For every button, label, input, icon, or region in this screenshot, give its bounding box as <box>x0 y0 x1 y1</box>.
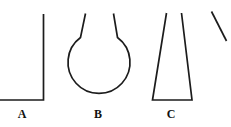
round-bottom-flask-outline-icon <box>68 14 130 94</box>
glassware-drawing-canvas <box>0 0 231 127</box>
partial-flask-edge-icon <box>212 12 227 42</box>
conical-flask-outline-icon <box>153 13 193 100</box>
glassware-label-b: B <box>94 108 102 120</box>
glassware-figure: A B C <box>0 0 231 127</box>
glassware-label-a: A <box>18 108 27 120</box>
glassware-label-c: C <box>167 108 176 120</box>
beaker-outline-icon <box>0 14 44 100</box>
